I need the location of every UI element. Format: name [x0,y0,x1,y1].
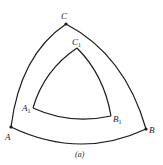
outer-arc-ca [11,24,66,127]
figure-caption: (a) [75,150,85,159]
outer-arc-ab [11,127,146,144]
label-c: C [61,11,68,21]
label-b1: B1 [113,114,122,125]
label-b: B [149,125,155,135]
label-a: A [4,132,11,142]
vertex-dot-a [9,125,12,128]
vertex-dot-c [64,22,67,25]
label-a1: A1 [21,103,31,114]
curvilinear-triangle-diagram: C A B C1 A1 B1 (a) [0,0,163,165]
inner-arc-c1a1 [33,48,77,108]
vertex-dot-b [144,127,147,130]
label-c1: C1 [72,37,81,48]
inner-arc-c1b1 [77,48,111,116]
inner-arc-a1b1 [33,108,111,119]
